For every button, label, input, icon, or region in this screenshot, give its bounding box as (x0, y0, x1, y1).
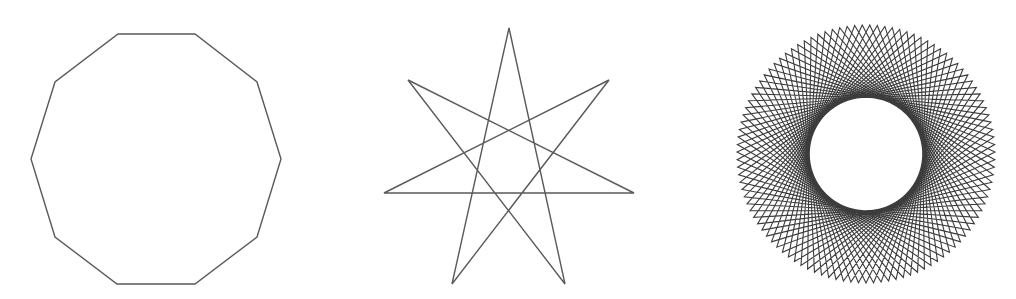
heptagram-star-shape (384, 28, 634, 284)
figure-canvas (0, 0, 1016, 299)
decagon-shape (31, 34, 281, 284)
many-pointed-star-shape (737, 25, 995, 283)
